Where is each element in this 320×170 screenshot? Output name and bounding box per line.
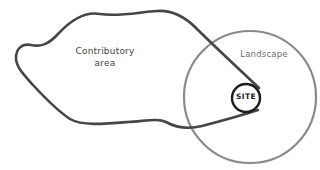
- landscape-label: Landscape: [233, 49, 295, 59]
- contributory-area-label-line2: area: [58, 57, 152, 69]
- site-label: SITE: [232, 92, 260, 101]
- contributory-area-outline: [16, 11, 259, 128]
- diagram-vector-layer: [0, 0, 320, 170]
- diagram-canvas: Contributoryarea Landscape SITE: [0, 0, 320, 170]
- contributory-area-label: Contributoryarea: [58, 45, 152, 69]
- contributory-area-label-line1: Contributory: [75, 46, 134, 56]
